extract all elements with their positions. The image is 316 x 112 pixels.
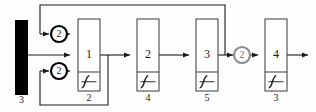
layer-3-count: 5	[197, 93, 217, 103]
layer-1-count: 2	[79, 93, 99, 103]
block-diagram-canvas: 3 2 2 2 1 2 2 4 3 5 4 3	[0, 0, 316, 112]
layer-1-number: 1	[79, 48, 99, 60]
input-bar	[15, 20, 28, 95]
delay-bottom-value: 2	[49, 66, 69, 76]
layer-4-count: 3	[266, 93, 286, 103]
layer-2-count: 4	[138, 93, 158, 103]
layer-4-number: 4	[266, 48, 286, 60]
delay-output-value: 2	[232, 50, 252, 60]
delay-top-value: 2	[49, 29, 69, 39]
layer-2-number: 2	[138, 48, 158, 60]
input-bar-label: 3	[9, 95, 34, 105]
layer-3-number: 3	[197, 48, 217, 60]
